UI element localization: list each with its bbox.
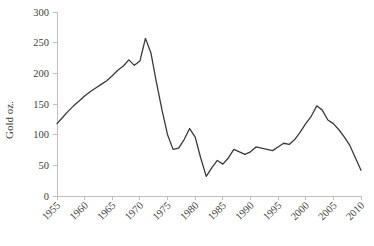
x-tick-label: 1955	[40, 200, 63, 223]
x-tick-label: 2010	[344, 200, 367, 223]
x-axis: 1955196019651970197519801985199019952000…	[40, 196, 367, 222]
x-tick-label: 2000	[289, 200, 312, 223]
line-chart: 050100150200250300 195519601965197019751…	[0, 0, 374, 246]
y-tick-label: 50	[39, 160, 50, 171]
x-tick-label: 1990	[233, 200, 256, 223]
x-tick-label: 2005	[316, 200, 339, 223]
y-tick-label: 0	[44, 191, 49, 202]
x-tick-label: 1975	[150, 200, 173, 223]
x-tick-label: 1960	[67, 200, 90, 223]
chart-container: 050100150200250300 195519601965197019751…	[0, 0, 374, 246]
y-tick-label: 300	[33, 7, 49, 18]
y-tick-label: 100	[33, 129, 49, 140]
x-tick-label: 1985	[206, 200, 229, 223]
x-tick-label: 1970	[123, 200, 146, 223]
series-line	[57, 38, 361, 176]
x-tick-label: 1965	[95, 200, 118, 223]
y-axis: 050100150200250300	[33, 7, 57, 202]
y-tick-label: 200	[33, 68, 49, 79]
x-tick-label: 1995	[261, 200, 284, 223]
y-tick-label: 150	[33, 99, 49, 110]
x-tick-label: 1980	[178, 200, 201, 223]
y-axis-title: Gold oz.	[3, 101, 15, 139]
y-tick-label: 250	[33, 37, 49, 48]
data-series-group	[57, 38, 361, 176]
y-axis-title-text: Gold oz.	[3, 101, 15, 139]
